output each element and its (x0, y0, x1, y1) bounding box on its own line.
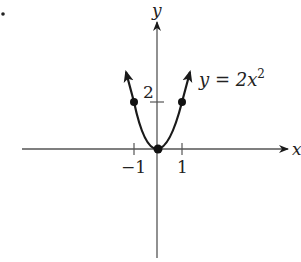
y-tick-label-2: 2 (143, 82, 154, 102)
point-origin (154, 145, 163, 154)
parabola-right-branch (157, 72, 190, 149)
bullet-marker (1, 12, 5, 16)
x-tick-label-neg1: −1 (121, 157, 146, 177)
equation-exponent: 2 (257, 67, 265, 81)
point-neg1-2 (130, 98, 138, 106)
point-1-2 (178, 98, 186, 106)
x-axis-label: x (292, 139, 301, 159)
y-axis-label: y (151, 0, 162, 20)
equation-label: y = 2x2 (198, 67, 265, 90)
parabola-figure: x y −1 1 2 y = 2x2 (0, 0, 301, 262)
x-tick-label-1: 1 (177, 157, 188, 177)
equation-main: y = 2x (198, 69, 257, 90)
